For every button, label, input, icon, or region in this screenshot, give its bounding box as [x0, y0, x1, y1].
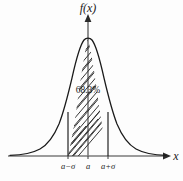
x-axis-arrowhead [163, 153, 171, 160]
y-axis-arrowhead [85, 14, 92, 22]
tick-label-a: a [86, 161, 90, 171]
shaded-region-hatching [44, 0, 128, 168]
tick-label-a-minus-sigma: a−σ [61, 161, 76, 171]
y-axis-label: f(x) [80, 1, 97, 15]
figure-canvas: a−σ a a+σ f(x) x 68.3% [0, 0, 183, 181]
normal-distribution-figure: a−σ a a+σ f(x) x 68.3% [0, 0, 183, 181]
x-axis-label: x [172, 149, 179, 163]
tick-label-a-plus-sigma: a+σ [101, 161, 116, 171]
shaded-area-percentage-label: 68.3% [76, 85, 101, 95]
